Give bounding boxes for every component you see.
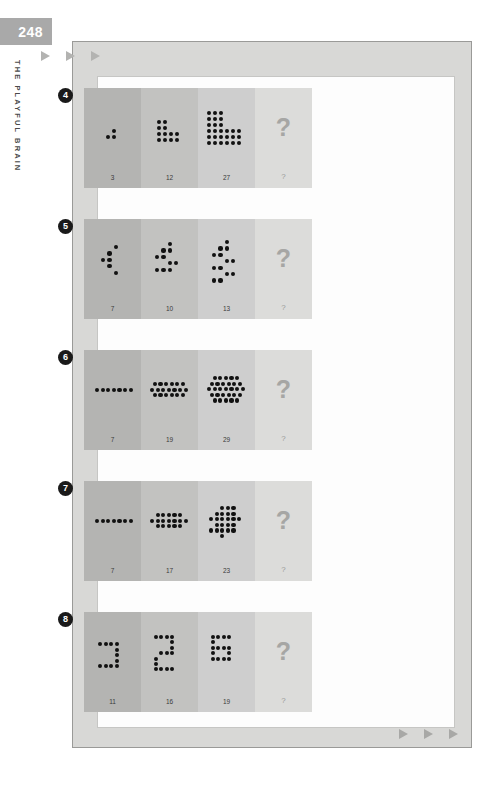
pattern-dot <box>153 382 157 386</box>
dot-count-label: 3 <box>84 174 141 181</box>
pattern-dot <box>207 141 211 145</box>
pattern-dot <box>221 382 225 386</box>
pattern-dot <box>227 382 231 386</box>
pattern-dot <box>218 253 222 257</box>
pattern-dot <box>114 271 118 275</box>
pattern-dot <box>213 117 217 121</box>
pattern-dot <box>181 382 185 386</box>
pattern-dot <box>213 376 217 380</box>
puzzle-cell: 3 <box>84 88 141 188</box>
pattern-dot <box>231 517 235 521</box>
puzzle-number-badge: 4 <box>58 88 73 103</box>
pattern-dot <box>123 388 127 392</box>
question-mark-icon: ? <box>255 246 312 271</box>
dot-count-label: 19 <box>141 436 198 443</box>
pattern-dot <box>209 528 213 532</box>
pattern-dot <box>213 135 217 139</box>
pattern-dot <box>175 138 179 142</box>
dot-pattern <box>84 88 141 168</box>
pattern-dot <box>170 382 174 386</box>
pattern-dot <box>163 126 167 130</box>
pattern-dot <box>167 513 171 517</box>
dot-pattern <box>198 350 255 430</box>
dot-pattern <box>84 481 141 561</box>
pattern-dot <box>237 135 241 139</box>
dot-pattern <box>84 612 141 692</box>
arrow-right-icon <box>91 51 100 61</box>
pattern-dot <box>178 388 182 392</box>
pattern-dot <box>101 388 105 392</box>
puzzle-row: 671929?? <box>84 350 312 450</box>
pattern-dot <box>215 382 219 386</box>
pattern-dot <box>210 393 214 397</box>
pattern-dot <box>129 388 133 392</box>
pattern-dot <box>213 123 217 127</box>
pattern-dot <box>107 264 111 268</box>
pattern-dot <box>213 141 217 145</box>
pattern-dot <box>218 398 222 402</box>
pattern-dot <box>150 519 154 523</box>
pattern-dot <box>212 266 216 270</box>
pattern-dot <box>210 382 214 386</box>
pattern-dot <box>155 268 159 272</box>
pattern-dot <box>104 642 108 646</box>
pattern-dot <box>207 387 211 391</box>
pattern-dot <box>157 132 161 136</box>
pattern-dot <box>238 382 242 386</box>
pattern-dot <box>161 519 165 523</box>
puzzle-row: 571013?? <box>84 219 312 319</box>
arrow-right-icon <box>66 51 75 61</box>
puzzle-cell: 10 <box>141 219 198 319</box>
arrow-right-icon <box>41 51 50 61</box>
pattern-dot <box>164 393 168 397</box>
dot-count-label: ? <box>255 565 312 574</box>
pattern-dot <box>219 111 223 115</box>
pattern-dot <box>232 382 236 386</box>
pattern-dot <box>231 523 235 527</box>
pattern-dot <box>159 651 163 655</box>
pattern-dot <box>115 648 119 652</box>
pattern-dot <box>213 398 217 402</box>
puzzle-cell: 7 <box>84 219 141 319</box>
pattern-dot <box>235 387 239 391</box>
pattern-dot <box>216 646 220 650</box>
pattern-dot <box>225 246 229 250</box>
pattern-dot <box>237 141 241 145</box>
pattern-dot <box>169 138 173 142</box>
pattern-dot <box>226 512 230 516</box>
pattern-dot <box>175 393 179 397</box>
pattern-dot <box>155 255 159 259</box>
pattern-dot <box>212 253 216 257</box>
pattern-dot <box>219 123 223 127</box>
pattern-dot <box>181 393 185 397</box>
pattern-dot <box>238 393 242 397</box>
pattern-dot <box>226 517 230 521</box>
pattern-dot <box>115 659 119 663</box>
pattern-dot <box>226 506 230 510</box>
pattern-dot <box>161 255 165 259</box>
pattern-dot <box>109 642 113 646</box>
pattern-dot <box>154 657 158 661</box>
pattern-dot <box>212 278 216 282</box>
pattern-dot <box>231 506 235 510</box>
pattern-dot <box>184 519 188 523</box>
pattern-dot <box>169 132 173 136</box>
pattern-dot <box>114 245 118 249</box>
pattern-dot <box>226 523 230 527</box>
puzzle-cell-answer: ?? <box>255 481 312 581</box>
pattern-dot <box>221 393 225 397</box>
dot-count-label: 13 <box>198 305 255 312</box>
dot-pattern <box>141 88 198 168</box>
pattern-dot <box>232 393 236 397</box>
puzzle-cell: 16 <box>141 612 198 712</box>
pattern-dot <box>175 382 179 386</box>
pattern-dot <box>158 393 162 397</box>
pattern-dot <box>112 135 116 139</box>
pattern-dot <box>154 635 158 639</box>
pattern-dot <box>163 120 167 124</box>
pattern-dot <box>154 662 158 666</box>
pattern-dot <box>231 135 235 139</box>
pattern-dot <box>167 388 171 392</box>
pattern-dot <box>222 657 226 661</box>
pattern-dot <box>112 519 116 523</box>
